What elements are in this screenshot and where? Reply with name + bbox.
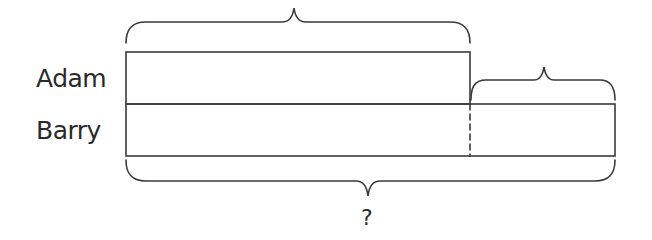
bar-model-diagram: Adam Barry ? (0, 0, 652, 240)
extra-brace (471, 67, 615, 100)
barry-bar (126, 104, 615, 156)
adam-bar (126, 52, 470, 104)
total-brace (126, 160, 615, 196)
question-mark-label: ? (361, 207, 373, 229)
adam-brace (126, 8, 470, 43)
row-label-barry: Barry (36, 118, 101, 143)
row-label-adam: Adam (36, 66, 106, 91)
